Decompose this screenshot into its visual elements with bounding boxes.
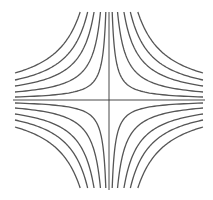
hyperbola-curve (124, 114, 203, 188)
hyperbola-curve (118, 108, 203, 188)
hyperbola-curve (15, 114, 94, 188)
hyperbola-curve (124, 12, 203, 86)
hyperbola-curve (118, 12, 203, 92)
hyperbola-curve (15, 108, 100, 188)
hyperbola-curve (15, 12, 80, 73)
hyperbola-curve (15, 12, 100, 92)
hyperbola-diagram (0, 0, 213, 200)
hyperbola-curve (138, 12, 203, 73)
hyperbola-curve (15, 12, 94, 86)
hyperbola-curve (138, 127, 203, 188)
hyperbola-curve (15, 127, 80, 188)
